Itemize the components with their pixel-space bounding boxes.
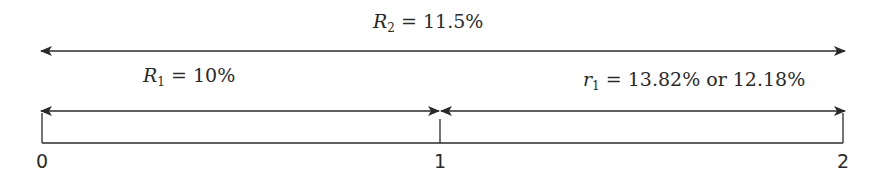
r1-sub: 1 [157, 75, 165, 89]
forward-rate-value: = 13.82% or 12.18% [600, 68, 806, 90]
r2-label: R2 = 11.5% [373, 12, 483, 34]
r2-value: = 11.5% [395, 10, 483, 32]
r2-var: R [373, 10, 387, 32]
forward-rate-label: r1 = 13.82% or 12.18% [583, 70, 805, 92]
tick-label-2: 2 [837, 152, 849, 171]
r1-var: R [143, 64, 157, 86]
forward-rate-var: r [583, 68, 592, 90]
r1-label: R1 = 10% [143, 66, 235, 88]
forward-rate-sub: 1 [592, 79, 600, 93]
tick-label-0: 0 [36, 152, 48, 171]
r2-sub: 2 [387, 21, 395, 35]
tick-label-1: 1 [434, 152, 446, 171]
r1-value: = 10% [165, 64, 235, 86]
